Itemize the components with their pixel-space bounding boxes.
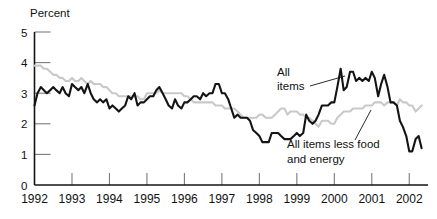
x-tick-label: 1997	[209, 192, 236, 206]
annotation-all-items-line1: All	[277, 66, 290, 78]
annotation-all-items-line2: items	[277, 80, 305, 92]
x-tick-label: 1999	[283, 192, 310, 206]
cpi-inflation-chart: Percent 012345 1992199319941995199619971…	[0, 0, 437, 219]
x-tick-label: 1993	[59, 192, 86, 206]
y-tick-label: 5	[21, 27, 27, 39]
chart-canvas: Percent 012345 1992199319941995199619971…	[0, 0, 437, 219]
annotation-core-line2: and energy	[287, 153, 345, 165]
x-tick-label: 1992	[21, 192, 48, 206]
y-axis-title: Percent	[30, 7, 70, 19]
x-tick-label: 1996	[171, 192, 198, 206]
x-tick-label: 1998	[246, 192, 273, 206]
y-tick-label: 3	[21, 88, 27, 100]
x-tick-label: 2002	[396, 192, 423, 206]
y-tick-label: 0	[21, 180, 27, 192]
x-tick-label: 2000	[321, 192, 348, 206]
x-tick-label: 2001	[358, 192, 385, 206]
y-tick-label: 1	[21, 149, 27, 161]
y-tick-label: 2	[21, 118, 27, 130]
x-tick-label: 1994	[96, 192, 123, 206]
y-tick-label: 4	[21, 57, 28, 69]
x-tick-label: 1995	[134, 192, 161, 206]
chart-background	[0, 0, 437, 219]
annotation-core-line1: All items less food	[287, 138, 380, 150]
